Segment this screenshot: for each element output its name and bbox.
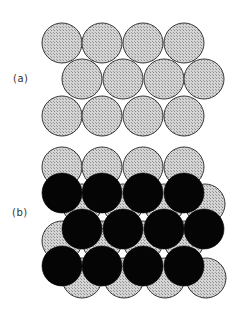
sphere-gray: [62, 59, 102, 99]
sphere-gray: [123, 96, 163, 136]
sphere-gray: [184, 59, 224, 99]
sphere-gray: [103, 59, 143, 99]
sphere-black: [62, 209, 102, 249]
panel-b-top-layer: [42, 173, 224, 286]
sphere-gray: [144, 59, 184, 99]
sphere-gray: [82, 96, 122, 136]
sphere-black: [123, 246, 163, 286]
sphere-black: [123, 173, 163, 213]
sphere-black: [82, 246, 122, 286]
sphere-black: [82, 173, 122, 213]
sphere-black: [164, 246, 204, 286]
sphere-black: [103, 209, 143, 249]
sphere-black: [184, 209, 224, 249]
sphere-gray: [42, 23, 82, 63]
sphere-gray: [164, 23, 204, 63]
sphere-gray: [164, 96, 204, 136]
close-packing-diagram: [0, 0, 240, 313]
sphere-black: [42, 246, 82, 286]
sphere-black: [144, 209, 184, 249]
sphere-gray: [123, 23, 163, 63]
sphere-black: [42, 173, 82, 213]
sphere-gray: [82, 23, 122, 63]
sphere-gray: [42, 96, 82, 136]
panel-a-single-layer: [42, 23, 224, 136]
sphere-black: [164, 173, 204, 213]
